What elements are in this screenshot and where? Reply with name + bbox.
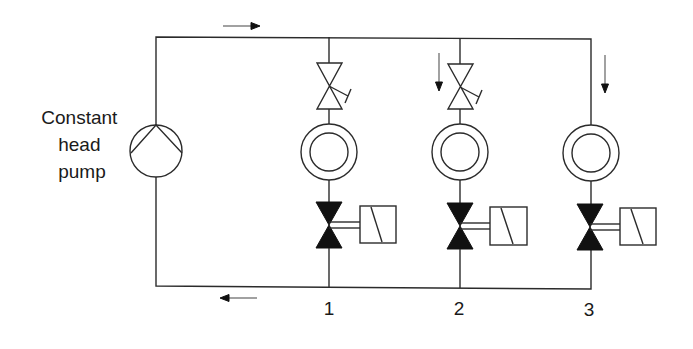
main-loop-piping bbox=[156, 37, 591, 289]
supply-pipe bbox=[156, 37, 591, 125]
branch-3-label: 3 bbox=[584, 299, 595, 320]
branch-2-flow-arrow bbox=[436, 53, 443, 91]
balancing-valve-icon bbox=[448, 64, 482, 109]
branch-2-label: 2 bbox=[454, 298, 465, 319]
coil-icon bbox=[432, 124, 488, 180]
coil-icon bbox=[563, 125, 619, 181]
branch-1 bbox=[301, 37, 396, 287]
hydronic-diagram: Constant head pump 1 bbox=[0, 0, 693, 349]
return-pipe bbox=[156, 177, 591, 289]
control-valve-icon bbox=[447, 203, 527, 249]
branch-2 bbox=[432, 38, 527, 288]
balancing-valve-icon bbox=[317, 63, 351, 109]
coil-icon bbox=[301, 124, 357, 180]
branch-3 bbox=[563, 125, 656, 250]
control-valve-icon bbox=[316, 202, 396, 248]
branch-3-flow-arrow bbox=[602, 55, 609, 93]
supply-flow-arrow bbox=[223, 23, 260, 30]
pump-label: Constant head pump bbox=[41, 107, 122, 182]
pump-symbol bbox=[130, 125, 182, 177]
control-valve-icon bbox=[577, 204, 656, 250]
branch-1-label: 1 bbox=[324, 298, 335, 319]
return-flow-arrow bbox=[220, 295, 257, 302]
